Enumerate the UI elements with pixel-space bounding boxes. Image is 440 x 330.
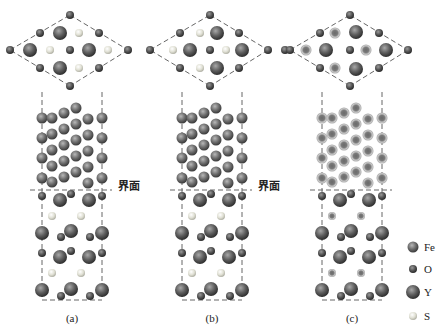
atom-o: [66, 11, 74, 19]
atom-fe: [351, 135, 362, 146]
atom-fe: [97, 133, 108, 144]
panel-c: [286, 11, 412, 300]
atom-y: [315, 226, 329, 240]
atom-fe: [361, 45, 372, 56]
panel-label: (c): [346, 312, 359, 325]
upper-slab: [37, 103, 108, 189]
atom-o: [286, 46, 294, 54]
atom-fe: [223, 162, 234, 173]
atom-o: [197, 292, 205, 300]
atom-o: [67, 190, 75, 198]
atom-y: [35, 226, 49, 240]
atom-y: [204, 224, 218, 238]
atom-o: [378, 192, 386, 200]
interface-label: 界面: [258, 180, 280, 192]
atom-o: [378, 249, 386, 257]
atom-s: [48, 212, 56, 220]
atom-fe: [317, 113, 328, 124]
atom-fe: [327, 129, 338, 140]
atom-s: [222, 46, 230, 54]
atom-s: [77, 269, 85, 277]
atom-o: [57, 233, 65, 241]
atom-fe: [363, 146, 374, 157]
atom-o: [6, 46, 14, 54]
atom-o: [316, 29, 324, 37]
atom-fe: [177, 133, 188, 144]
atom-fe: [237, 153, 248, 164]
atom-s: [217, 269, 225, 277]
atom-fe: [199, 108, 210, 119]
atom-fe: [211, 119, 222, 130]
panel-a: [6, 11, 132, 300]
atom-s: [328, 269, 336, 277]
crystal-structure-figure: (a)(b)(c)界面界面 FeOYS: [0, 0, 440, 330]
atom-o: [346, 46, 354, 54]
atom-y: [333, 250, 347, 264]
atom-fe: [211, 151, 222, 162]
atom-fe: [327, 145, 338, 156]
atom-fe: [71, 103, 82, 114]
atom-fe: [223, 114, 234, 125]
atom-y: [95, 283, 109, 297]
atom-fe: [223, 146, 234, 157]
atom-fe: [223, 130, 234, 141]
atom-o: [206, 82, 214, 90]
atom-s: [75, 64, 83, 72]
atom-y: [362, 193, 376, 207]
atom-o: [95, 64, 103, 72]
atom-fe: [177, 173, 188, 184]
atom-o: [207, 190, 215, 198]
atom-fe: [187, 161, 198, 172]
atom-o: [86, 292, 94, 300]
atom-fe: [83, 162, 94, 173]
atom-o: [38, 192, 46, 200]
atom-o: [238, 249, 246, 257]
atom-s: [357, 269, 365, 277]
atom-fe: [363, 130, 374, 141]
atom-y: [193, 193, 207, 207]
atom-fe: [37, 133, 48, 144]
legend-label: Y: [424, 286, 432, 298]
atom-s: [217, 212, 225, 220]
legend-swatch-o: [409, 265, 417, 273]
atom-o: [98, 192, 106, 200]
atom-s: [357, 212, 365, 220]
atom-o: [57, 292, 65, 300]
atom-o: [38, 249, 46, 257]
atom-s: [75, 29, 83, 37]
atom-o: [366, 292, 374, 300]
atom-o: [346, 11, 354, 19]
upper-slab: [317, 103, 388, 189]
atom-y: [175, 226, 189, 240]
atom-fe: [59, 172, 70, 183]
atom-fe: [339, 108, 350, 119]
atom-y: [375, 283, 389, 297]
lower-slab: [35, 190, 109, 300]
atom-y: [82, 250, 96, 264]
atom-fe: [47, 145, 58, 156]
atom-y: [82, 193, 96, 207]
atom-y: [95, 226, 109, 240]
atom-o: [67, 247, 75, 255]
atom-fe: [317, 173, 328, 184]
atom-fe: [317, 153, 328, 164]
legend-item-fe: Fe: [408, 241, 436, 253]
atom-o: [207, 247, 215, 255]
atom-fe: [97, 153, 108, 164]
atom-fe: [59, 124, 70, 135]
atom-s: [328, 212, 336, 220]
atom-o: [124, 46, 132, 54]
atom-s: [196, 29, 204, 37]
atom-y: [362, 250, 376, 264]
atom-o: [366, 233, 374, 241]
atom-fe: [351, 167, 362, 178]
atom-fe: [199, 124, 210, 135]
atom-fe: [187, 177, 198, 188]
atom-fe: [339, 124, 350, 135]
atom-o: [318, 192, 326, 200]
atom-o: [404, 46, 412, 54]
lower-slab: [175, 190, 249, 300]
panel-label: (a): [66, 312, 79, 325]
atom-y: [82, 43, 96, 57]
atom-fe: [187, 145, 198, 156]
